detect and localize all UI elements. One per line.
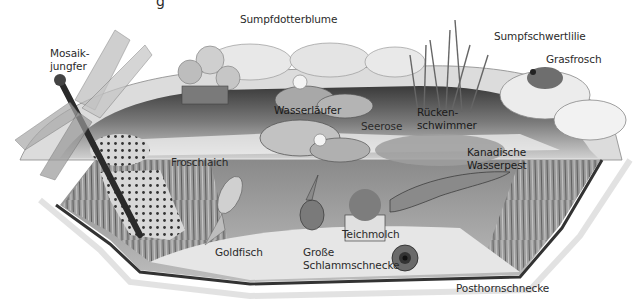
label-kanadische-wasserpest: Kanadische Wasserpest (467, 146, 527, 172)
label-sumpfdotterblume: Sumpfdotterblume (240, 13, 337, 26)
label-posthornschnecke: Posthornschnecke (456, 282, 549, 295)
label-wasserlaeufer: Wasserläufer (274, 104, 341, 117)
label-grasfrosch: Grasfrosch (546, 53, 601, 66)
label-sumpfschwertlilie: Sumpfschwertlilie (494, 30, 586, 43)
label-goldfisch: Goldfisch (215, 246, 263, 259)
label-seerose: Seerose (361, 120, 402, 133)
label-mosaikjungfer: Mosaik- jungfer (50, 47, 89, 73)
pond-illustration: g (0, 0, 643, 303)
title-fragment: g (156, 0, 165, 9)
label-froschlaich: Froschlaich (171, 156, 228, 169)
label-grosse-schlammschnecke: Große Schlammschnecke (303, 246, 399, 272)
label-teichmolch: Teichmolch (342, 228, 399, 241)
label-rueckenschwimmer: Rücken- schwimmer (417, 106, 477, 132)
common-frog (527, 67, 563, 89)
